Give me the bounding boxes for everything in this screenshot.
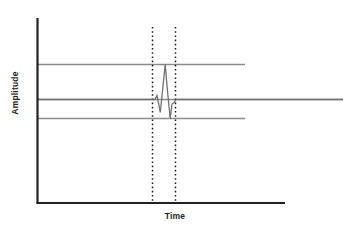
marker-lines-group	[153, 27, 176, 203]
reference-lines-group	[38, 65, 343, 119]
pulse-waveform	[38, 65, 343, 119]
seismic-pulse-chart: Amplitude Time	[0, 0, 344, 241]
amplitude-axis-label: Amplitude	[10, 48, 20, 138]
chart-canvas	[0, 0, 344, 241]
time-axis-label: Time	[140, 211, 210, 221]
waveform-group	[38, 65, 343, 119]
